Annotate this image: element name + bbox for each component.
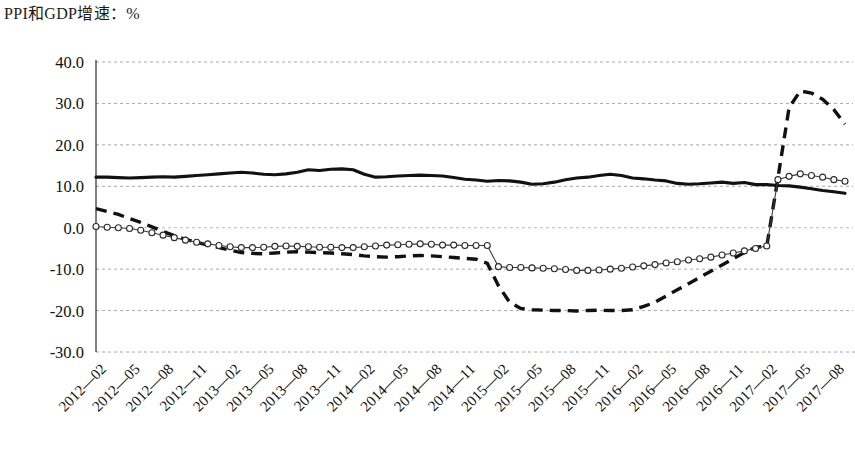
data-point-marker — [730, 250, 736, 256]
data-point-marker — [238, 245, 244, 251]
data-point-marker — [618, 265, 624, 271]
data-point-marker — [406, 241, 412, 247]
data-point-marker — [328, 244, 334, 250]
y-axis-tick-labels: 40.030.020.010.00.0-10.0-20.0-30.0 — [50, 53, 84, 362]
data-point-marker — [607, 266, 613, 272]
y-tick-label: 40.0 — [55, 53, 84, 72]
data-point-marker — [462, 243, 468, 249]
data-point-marker — [540, 265, 546, 271]
data-point-marker — [384, 242, 390, 248]
data-point-marker — [518, 264, 524, 270]
data-point-marker — [775, 177, 781, 183]
data-point-marker — [663, 260, 669, 266]
data-point-marker — [842, 178, 848, 184]
data-point-marker — [272, 243, 278, 249]
data-point-marker — [317, 244, 323, 250]
x-axis-tick-labels: 2012—022012—052012—082012—112013—022013—… — [56, 361, 848, 415]
series-line-gdp-nominal-growth — [96, 169, 845, 193]
data-point-marker — [440, 242, 446, 248]
data-point-marker — [719, 252, 725, 258]
series-group — [93, 91, 848, 311]
chart-plot-area: 40.030.020.010.00.0-10.0-20.0-30.0 2012—… — [0, 0, 855, 471]
data-point-marker — [820, 174, 826, 180]
series-line-ppi-all-industrial — [96, 91, 845, 311]
data-point-marker — [741, 248, 747, 254]
data-point-marker — [652, 262, 658, 268]
data-point-marker — [339, 245, 345, 251]
data-point-marker — [149, 230, 155, 236]
data-point-marker — [104, 224, 110, 230]
data-point-marker — [507, 264, 513, 270]
data-point-marker — [194, 239, 200, 245]
data-point-marker — [395, 242, 401, 248]
y-tick-label: 0.0 — [63, 219, 84, 238]
data-point-marker — [484, 243, 490, 249]
data-point-marker — [127, 226, 133, 232]
data-point-marker — [283, 243, 289, 249]
data-point-marker — [630, 264, 636, 270]
data-point-marker — [138, 227, 144, 233]
data-point-marker — [171, 235, 177, 241]
data-point-marker — [182, 237, 188, 243]
data-point-marker — [529, 265, 535, 271]
y-tick-label: -10.0 — [50, 260, 84, 279]
data-point-marker — [641, 263, 647, 269]
data-point-marker — [205, 241, 211, 247]
data-point-marker — [786, 173, 792, 179]
y-tick-label: 20.0 — [55, 136, 84, 155]
data-point-marker — [797, 171, 803, 177]
data-point-marker — [160, 232, 166, 238]
data-point-marker — [294, 243, 300, 249]
chart-container: PPI和GDP增速：% 40.030.020.010.00.0-10.0-20.… — [0, 0, 855, 471]
data-point-marker — [596, 267, 602, 273]
y-tick-label: -30.0 — [50, 343, 84, 362]
y-tick-label: 30.0 — [55, 94, 84, 113]
data-point-marker — [708, 254, 714, 260]
y-tick-label: -20.0 — [50, 302, 84, 321]
data-point-marker — [372, 243, 378, 249]
data-point-marker — [361, 244, 367, 250]
data-point-marker — [551, 266, 557, 272]
data-point-marker — [764, 243, 770, 249]
y-tick-label: 10.0 — [55, 177, 84, 196]
data-point-marker — [250, 245, 256, 251]
data-point-marker — [697, 256, 703, 262]
data-point-marker — [428, 241, 434, 247]
data-point-marker — [261, 244, 267, 250]
data-point-marker — [685, 257, 691, 263]
data-point-marker — [808, 173, 814, 179]
data-point-marker — [216, 243, 222, 249]
data-point-marker — [831, 177, 837, 183]
data-point-marker — [350, 245, 356, 251]
data-point-marker — [473, 243, 479, 249]
data-point-marker — [674, 259, 680, 265]
data-point-marker — [93, 223, 99, 229]
data-point-marker — [305, 244, 311, 250]
gridlines-group — [96, 62, 855, 352]
data-point-marker — [115, 225, 121, 231]
data-point-marker — [563, 267, 569, 273]
data-point-marker — [753, 245, 759, 251]
data-point-marker — [451, 242, 457, 248]
data-point-marker — [495, 264, 501, 270]
data-point-marker — [417, 241, 423, 247]
data-point-marker — [227, 244, 233, 250]
data-point-marker — [585, 267, 591, 273]
data-point-marker — [574, 267, 580, 273]
